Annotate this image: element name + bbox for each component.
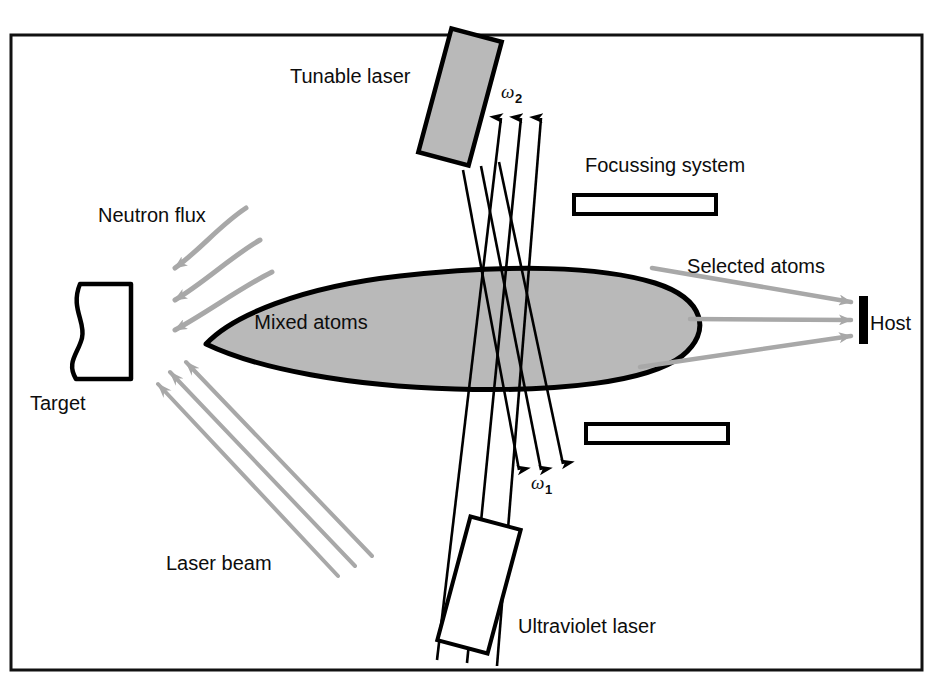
ultraviolet-laser-label: Ultraviolet laser	[518, 615, 656, 637]
focussing-plate-top	[574, 195, 716, 214]
omega1-label: ω 1	[531, 472, 552, 497]
tunable-laser-label: Tunable laser	[290, 65, 411, 87]
target-block	[72, 284, 131, 379]
svg-text:1: 1	[545, 482, 552, 497]
focussing-plate-bottom	[586, 424, 728, 443]
omega2-label: ω 2	[501, 81, 522, 106]
target-label: Target	[30, 392, 86, 414]
ultraviolet-laser-block	[437, 516, 520, 653]
svg-text:ω: ω	[501, 81, 514, 102]
mixed-atoms-label: Mixed atoms	[254, 311, 367, 333]
laser-beam-label: Laser beam	[166, 552, 272, 574]
svg-text:ω: ω	[531, 472, 544, 493]
laser-beam-arrows	[158, 362, 372, 576]
tunable-laser-block	[418, 28, 501, 165]
svg-text:2: 2	[515, 91, 522, 106]
host-label: Host	[870, 312, 912, 334]
diagram-svg: Mixed atoms Target Neutron flux Laser be…	[0, 0, 927, 689]
selected-atoms-label: Selected atoms	[687, 255, 825, 277]
focussing-system-label: Focussing system	[585, 154, 745, 176]
host-collector	[859, 296, 868, 344]
neutron-flux-label: Neutron flux	[98, 204, 206, 226]
figure-canvas: Mixed atoms Target Neutron flux Laser be…	[0, 0, 927, 689]
